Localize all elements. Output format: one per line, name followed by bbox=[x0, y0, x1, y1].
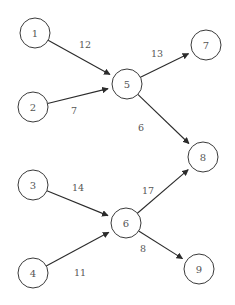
edge-weight-label: 13 bbox=[151, 48, 163, 59]
edge-weight-label: 11 bbox=[74, 267, 86, 278]
node-1[interactable]: 1 bbox=[20, 18, 50, 48]
edge-weight-label: 12 bbox=[79, 39, 91, 50]
node-label-6: 6 bbox=[123, 218, 129, 229]
edge-weight-label: 7 bbox=[71, 105, 77, 116]
node-2[interactable]: 2 bbox=[18, 92, 48, 122]
node-label-2: 2 bbox=[30, 102, 36, 113]
node-9[interactable]: 9 bbox=[184, 254, 214, 284]
node-5[interactable]: 5 bbox=[112, 69, 142, 99]
edge-2-to-5 bbox=[48, 89, 108, 104]
node-label-1: 1 bbox=[32, 28, 38, 39]
graph-diagram: 1271361411178 123456789 bbox=[0, 0, 235, 305]
node-label-5: 5 bbox=[124, 79, 130, 90]
edge-weight-label: 17 bbox=[142, 185, 154, 196]
node-8[interactable]: 8 bbox=[188, 142, 218, 172]
node-label-3: 3 bbox=[30, 180, 36, 191]
edge-5-to-7 bbox=[140, 54, 188, 78]
edge-3-to-6 bbox=[47, 191, 108, 216]
node-label-8: 8 bbox=[200, 152, 206, 163]
node-label-7: 7 bbox=[203, 40, 209, 51]
edge-weight-label: 8 bbox=[140, 243, 146, 254]
edge-5-to-8 bbox=[138, 94, 189, 143]
nodes-layer: 123456789 bbox=[18, 18, 221, 288]
node-7[interactable]: 7 bbox=[191, 30, 221, 60]
node-3[interactable]: 3 bbox=[18, 170, 48, 200]
node-4[interactable]: 4 bbox=[18, 258, 48, 288]
edge-weight-label: 6 bbox=[138, 122, 144, 133]
edge-4-to-6 bbox=[46, 232, 109, 266]
node-label-9: 9 bbox=[196, 264, 202, 275]
node-6[interactable]: 6 bbox=[111, 208, 141, 238]
node-label-4: 4 bbox=[30, 268, 36, 279]
edge-weight-label: 14 bbox=[72, 182, 84, 193]
